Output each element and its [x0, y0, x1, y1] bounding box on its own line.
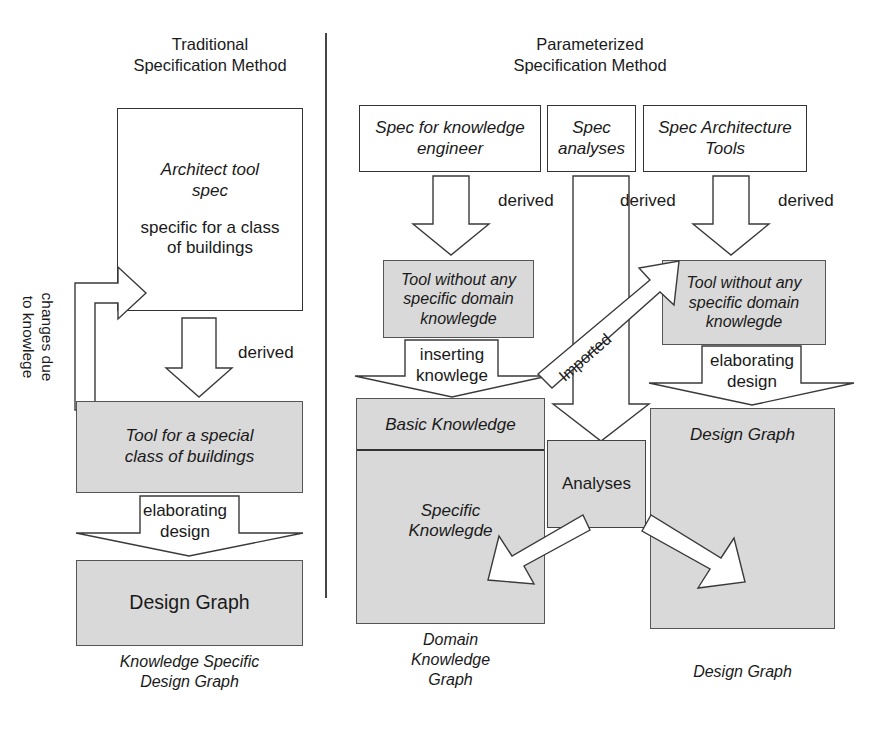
- tool-special-class-line2: class of buildings: [125, 447, 254, 468]
- spec-architecture-tools-line2: Tools: [705, 139, 745, 160]
- left-column-heading: Traditional Specification Method: [100, 34, 320, 77]
- architect-tool-spec-line4: of buildings: [167, 238, 253, 259]
- derived-label-3: derived: [778, 190, 863, 211]
- design-graph-label-right: Design Graph: [690, 425, 795, 446]
- tool-without-domain-left-line1: Tool without any: [401, 270, 516, 290]
- tool-without-domain-right-line3: knowlegde: [706, 312, 783, 332]
- analyses-box: Analyses: [547, 440, 646, 528]
- tool-without-domain-right-line2: specific domain: [689, 293, 799, 313]
- tool-without-domain-left-line3: knowlegde: [420, 309, 497, 329]
- spec-analyses-line1: Spec: [572, 118, 611, 139]
- elaborating-design-label-right: elaborating design: [676, 350, 828, 393]
- domain-knowledge-graph-caption: Domain Knowledge Graph: [356, 630, 545, 690]
- knowledge-box-divider: [357, 449, 544, 451]
- changes-due-to-knowlege-label: changes due to knowlege: [18, 272, 57, 402]
- tool-special-class-box: Tool for a special class of buildings: [76, 401, 303, 493]
- design-graph-box-left: Design Graph: [76, 560, 303, 646]
- spec-architecture-tools-box: Spec Architecture Tools: [643, 105, 807, 172]
- tool-without-domain-left-line2: specific domain: [403, 289, 513, 309]
- tool-without-domain-box-left: Tool without any specific domain knowleg…: [383, 260, 534, 338]
- inserting-knowlege-label: inserting knowlege: [376, 344, 528, 387]
- architect-tool-spec-line1: Architect tool: [161, 160, 259, 181]
- right-column-heading: Parameterized Specification Method: [470, 34, 710, 77]
- architect-tool-spec-box: Architect tool spec specific for a class…: [117, 108, 303, 311]
- design-graph-caption-right: Design Graph: [650, 662, 835, 682]
- elaborating-design-label-left: elaborating design: [110, 500, 260, 543]
- derived-label-left: derived: [238, 342, 328, 363]
- spec-knowledge-engineer-line1: Spec for knowledge: [375, 118, 524, 139]
- specific-knowledge-line2: Knowlegde: [408, 521, 492, 542]
- derived-arrow-left: [162, 318, 236, 400]
- diagram-canvas: Traditional Specification Method Paramet…: [0, 0, 873, 732]
- spec-analyses-line2: analyses: [558, 139, 625, 160]
- architect-tool-spec-line2: spec: [192, 181, 228, 202]
- tool-special-class-line1: Tool for a special: [126, 426, 254, 447]
- domain-knowledge-graph-box: Basic Knowledge Specific Knowlegde: [356, 398, 545, 624]
- spec-analyses-box: Spec analyses: [547, 105, 636, 172]
- tool-without-domain-right-line1: Tool without any: [686, 273, 801, 293]
- analyses-label: Analyses: [562, 474, 631, 495]
- design-graph-box-right: Design Graph: [650, 408, 835, 629]
- basic-knowledge-label: Basic Knowledge: [385, 415, 515, 436]
- spec-knowledge-engineer-box: Spec for knowledge engineer: [359, 105, 541, 172]
- derived-label-2: derived: [620, 190, 700, 211]
- architect-tool-spec-line3: specific for a class: [141, 218, 280, 239]
- specific-knowledge-line1: Specific: [421, 501, 481, 522]
- left-column-caption: Knowledge Specific Design Graph: [76, 652, 303, 692]
- design-graph-label-left: Design Graph: [129, 591, 249, 615]
- tool-without-domain-box-right: Tool without any specific domain knowleg…: [662, 260, 826, 345]
- derived-arrow-1: [408, 176, 494, 258]
- column-divider: [325, 33, 327, 598]
- spec-architecture-tools-line1: Spec Architecture: [658, 118, 792, 139]
- derived-label-1: derived: [498, 190, 578, 211]
- spec-knowledge-engineer-line2: engineer: [417, 139, 483, 160]
- derived-arrow-3: [688, 176, 774, 258]
- imported-label: Imported: [555, 299, 651, 386]
